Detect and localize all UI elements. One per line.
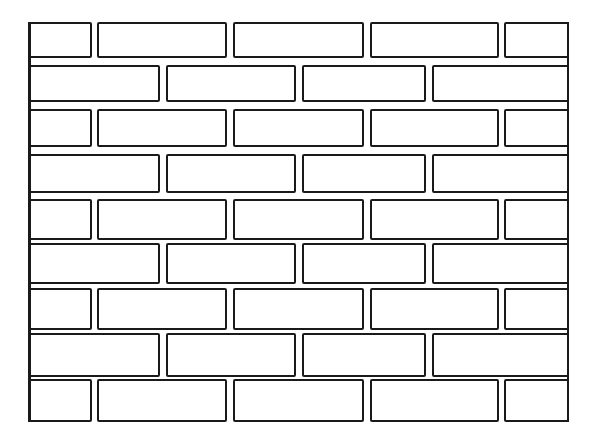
brick: [233, 109, 364, 147]
brick: [370, 22, 499, 58]
brick: [233, 22, 364, 58]
brick: [28, 22, 92, 58]
brick: [97, 22, 227, 58]
brick: [504, 199, 569, 240]
brick: [28, 109, 92, 147]
brick: [233, 199, 364, 240]
brick: [302, 243, 426, 284]
brick: [504, 22, 569, 58]
brick: [28, 288, 92, 330]
wall-left-edge: [28, 22, 31, 422]
brick: [28, 199, 92, 240]
brick: [432, 154, 569, 193]
brick: [504, 288, 569, 330]
brick: [166, 243, 296, 284]
brick: [166, 65, 296, 102]
brick: [97, 288, 227, 330]
brick: [504, 109, 569, 147]
brick: [28, 154, 160, 193]
brick: [28, 243, 160, 284]
brick: [97, 379, 227, 422]
brick: [28, 65, 160, 102]
brick: [28, 379, 92, 422]
brick: [28, 333, 160, 377]
brick: [370, 379, 499, 422]
brick: [432, 65, 569, 102]
brick: [166, 333, 296, 377]
brick: [370, 109, 499, 147]
brick: [233, 379, 364, 422]
brick: [302, 333, 426, 377]
brick: [432, 243, 569, 284]
brick: [97, 199, 227, 240]
brick: [166, 154, 296, 193]
brick-wall-diagram: [0, 0, 590, 446]
brick: [302, 65, 426, 102]
brick: [302, 154, 426, 193]
brick: [432, 333, 569, 377]
wall-right-edge: [567, 22, 570, 422]
brick: [504, 379, 569, 422]
brick: [233, 288, 364, 330]
brick: [370, 199, 499, 240]
brick: [370, 288, 499, 330]
brick: [97, 109, 227, 147]
